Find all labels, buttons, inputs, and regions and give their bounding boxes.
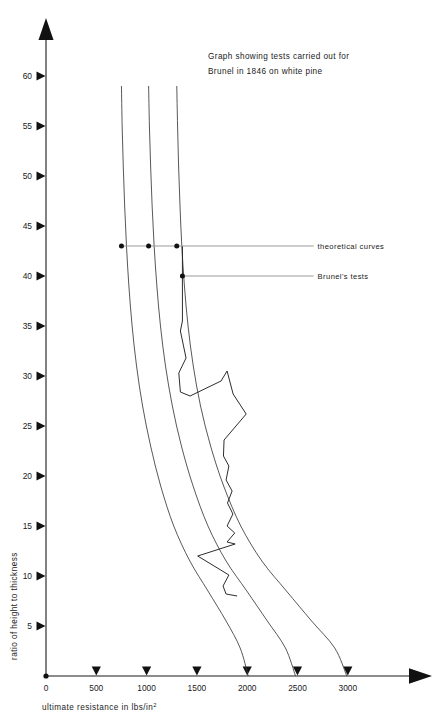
chart-title-line-1: Graph showing tests carried out for <box>208 52 349 61</box>
x-tick-label: 0 <box>44 683 49 693</box>
x-tick-marker <box>142 667 151 676</box>
data-series-group <box>121 86 346 676</box>
brunel-tests-curve <box>179 246 246 596</box>
y-tick-marker <box>37 221 46 230</box>
x-tick-label: 2000 <box>238 683 257 693</box>
y-axis-arrow-icon <box>39 18 54 40</box>
chart-container: 51015202530354045505560 0500100015002000… <box>0 0 443 725</box>
x-tick-marker <box>92 667 101 676</box>
annotations-group: theoretical curvesBrunel's tests <box>119 242 384 281</box>
y-tick-label: 40 <box>23 271 33 281</box>
theoretical-curve <box>177 86 347 676</box>
x-tick-label: 500 <box>89 683 103 693</box>
y-tick-label: 60 <box>23 71 33 81</box>
x-axis-title: ultimate resistance in lbs/in2 <box>42 702 157 712</box>
y-tick-marker <box>37 621 46 630</box>
y-tick-marker <box>37 521 46 530</box>
origin-point <box>43 673 48 678</box>
y-tick-label: 45 <box>23 221 33 231</box>
theoretical-curve <box>149 86 296 676</box>
theoretical-curve <box>121 86 248 676</box>
chart-title-line-2: Brunel in 1846 on white pine <box>208 67 323 76</box>
x-axis-title-superscript: 2 <box>153 702 157 708</box>
annotation-label: Brunel's tests <box>318 272 369 281</box>
x-tick-marker <box>192 667 201 676</box>
y-tick-marker <box>37 571 46 580</box>
y-tick-marker <box>37 471 46 480</box>
x-axis-arrow-icon <box>409 668 432 684</box>
y-tick-marker <box>37 271 46 280</box>
y-tick-label: 55 <box>23 121 33 131</box>
y-tick-marker <box>37 421 46 430</box>
y-tick-label: 10 <box>23 571 33 581</box>
y-tick-marker <box>37 121 46 130</box>
x-tick-label: 3000 <box>338 683 357 693</box>
annotation-marker-dot <box>180 274 185 279</box>
x-axis-ticks: 050010001500200025003000 <box>44 667 358 694</box>
y-tick-label: 25 <box>23 421 33 431</box>
y-tick-label: 50 <box>23 171 33 181</box>
x-tick-label: 1000 <box>137 683 156 693</box>
y-tick-label: 20 <box>23 471 33 481</box>
y-tick-label: 30 <box>23 371 33 381</box>
y-tick-marker <box>37 171 46 180</box>
x-tick-label: 1500 <box>188 683 207 693</box>
brunel-test-graph: 51015202530354045505560 0500100015002000… <box>0 0 443 725</box>
x-tick-label: 2500 <box>288 683 307 693</box>
annotation-marker-dot <box>119 244 124 249</box>
y-tick-marker <box>37 71 46 80</box>
y-axis-title: ratio of height to thickness <box>10 552 19 660</box>
y-tick-marker <box>37 321 46 330</box>
y-tick-label: 5 <box>27 621 32 631</box>
y-tick-label: 35 <box>23 321 33 331</box>
y-tick-marker <box>37 371 46 380</box>
annotation-marker-dot <box>146 244 151 249</box>
axes-group <box>39 18 433 684</box>
x-axis-title-main: ultimate resistance in lbs/in <box>42 703 153 712</box>
annotation-marker-dot <box>174 244 179 249</box>
chart-title-block: Graph showing tests carried out for Brun… <box>208 52 349 76</box>
annotation-label: theoretical curves <box>318 242 385 251</box>
y-tick-label: 15 <box>23 521 33 531</box>
y-axis-ticks: 51015202530354045505560 <box>23 71 46 631</box>
